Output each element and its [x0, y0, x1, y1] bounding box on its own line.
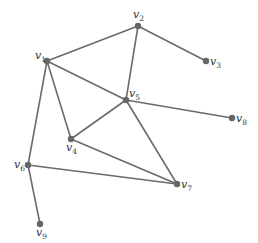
vertex-label-v4: v4 [66, 141, 77, 156]
vertex-label-subscript: 2 [139, 14, 144, 23]
vertex-label-subscript: 1 [41, 55, 46, 64]
vertex-label-subscript: 6 [20, 164, 25, 173]
vertex-label-v1: v1 [35, 49, 46, 64]
labels-layer: v1v2v3v4v5v6v7v8v9 [14, 8, 247, 241]
edge-v6-v9 [28, 165, 40, 224]
vertex-label-subscript: 8 [242, 118, 247, 127]
vertex-label-v5: v5 [129, 87, 140, 102]
edge-v4-v5 [71, 100, 126, 139]
graph-diagram: v1v2v3v4v5v6v7v8v9 [0, 0, 258, 243]
vertex-label-subscript: 3 [216, 61, 221, 70]
edge-v1-v4 [47, 61, 71, 139]
vertex-label-subscript: 4 [72, 147, 77, 156]
vertex-v7 [174, 181, 180, 187]
vertex-label-v6: v6 [14, 158, 25, 173]
vertex-label-v9: v9 [36, 226, 47, 241]
vertex-v8 [229, 115, 235, 121]
edge-v2-v3 [138, 26, 206, 61]
vertex-label-v7: v7 [181, 178, 192, 193]
vertex-v3 [203, 58, 209, 64]
edge-v1-v5 [47, 61, 126, 100]
nodes-layer [25, 23, 235, 227]
edge-v1-v6 [28, 61, 47, 165]
vertex-label-subscript: 9 [42, 232, 47, 241]
edge-v5-v8 [126, 100, 232, 118]
vertex-v6 [25, 162, 31, 168]
vertex-v2 [135, 23, 141, 29]
vertex-label-v8: v8 [236, 112, 247, 127]
edge-v1-v2 [47, 26, 138, 61]
edge-v5-v7 [126, 100, 177, 184]
edges-layer [28, 26, 232, 224]
vertex-label-v2: v2 [133, 8, 144, 23]
vertex-label-v3: v3 [210, 55, 221, 70]
vertex-label-subscript: 7 [187, 184, 192, 193]
vertex-label-subscript: 5 [135, 93, 140, 102]
